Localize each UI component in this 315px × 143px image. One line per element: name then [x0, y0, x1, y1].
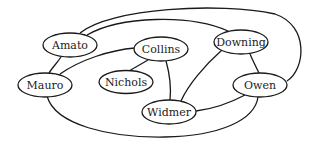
- edge-amato-mauro: [49, 57, 61, 73]
- edge-collins-nichols: [129, 60, 148, 71]
- node-nichols[interactable]: Nichols: [99, 71, 153, 94]
- node-collins[interactable]: Collins: [134, 37, 188, 61]
- edge-widmer-owen: [196, 95, 245, 111]
- node-widmer-label: Widmer: [147, 106, 192, 119]
- node-amato[interactable]: Amato: [43, 33, 97, 57]
- nodes: Amato Collins Downing Mauro Nichols Owen…: [18, 30, 287, 124]
- node-owen[interactable]: Owen: [233, 73, 287, 97]
- node-amato-label: Amato: [51, 39, 88, 52]
- edge-downing-owen: [250, 54, 259, 73]
- node-nichols-label: Nichols: [105, 76, 148, 89]
- edge-downing-widmer: [181, 50, 222, 101]
- node-mauro[interactable]: Mauro: [18, 73, 72, 97]
- edge-amato-downing: [87, 19, 228, 35]
- edge-collins-widmer: [166, 61, 170, 100]
- node-widmer[interactable]: Widmer: [142, 100, 196, 124]
- node-mauro-label: Mauro: [27, 79, 64, 92]
- node-downing[interactable]: Downing: [214, 30, 268, 54]
- node-owen-label: Owen: [244, 79, 276, 92]
- graph-diagram: Amato Collins Downing Mauro Nichols Owen…: [0, 0, 315, 143]
- node-collins-label: Collins: [142, 43, 181, 56]
- node-downing-label: Downing: [216, 36, 266, 49]
